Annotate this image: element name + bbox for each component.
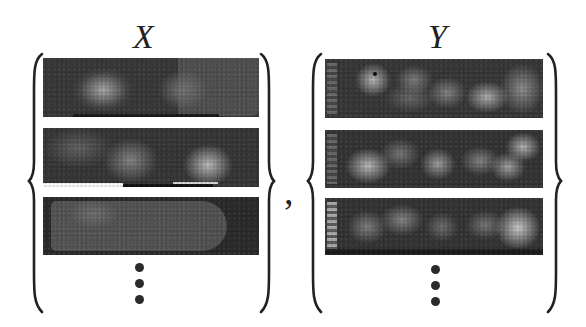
y-ellipsis-dot-3: [431, 297, 440, 306]
set-x-label: X: [133, 20, 154, 54]
x-ellipsis-dot-2: [135, 279, 144, 288]
y-ellipsis-dot-2: [431, 281, 440, 290]
x-ellipsis-dot-1: [135, 263, 144, 272]
set-separator-comma: ,: [284, 172, 294, 210]
left-set-close-brace: [257, 52, 277, 314]
y-image-3: [325, 198, 543, 255]
y-image-1: [325, 59, 543, 118]
x-image-3: [43, 197, 259, 255]
y-ellipsis-dot-1: [431, 265, 440, 274]
x-image-1: [43, 58, 259, 117]
set-y-label: Y: [428, 20, 447, 54]
right-set-close-brace: [544, 52, 564, 314]
x-ellipsis-dot-3: [135, 295, 144, 304]
right-set-open-brace: [307, 52, 327, 314]
x-image-2: [43, 128, 259, 187]
y-image-2: [325, 130, 543, 188]
